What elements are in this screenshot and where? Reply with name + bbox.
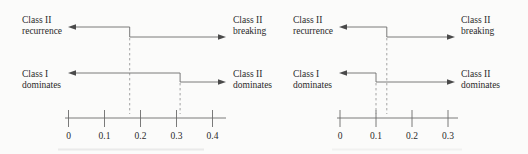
- label-class2-recurrence-line2: recurrence: [22, 26, 62, 36]
- label-class2-recurrence-line2: recurrence: [293, 26, 333, 36]
- class2-recurrence-arrow-head: [339, 24, 347, 29]
- axis-tick-label: 0.3: [442, 131, 454, 141]
- scan-artifact-left: [58, 149, 204, 151]
- class2-dominates-arrow-head: [447, 79, 455, 84]
- label-class2-recurrence-line1: Class II: [22, 15, 51, 25]
- label-class2-breaking-line2: breaking: [461, 26, 494, 36]
- label-class2-breaking-line1: Class II: [233, 15, 262, 25]
- class2-breaking-arrow-head: [218, 34, 226, 39]
- label-class2-breaking-line2: breaking: [233, 26, 266, 36]
- scan-artifact-right: [332, 149, 462, 151]
- label-class1-dominates-line2: dominates: [22, 80, 61, 90]
- axis-tick-label: 0.4: [207, 131, 219, 141]
- axis-tick-label: 0.3: [171, 131, 183, 141]
- label-class1-dominates-line2: dominates: [293, 80, 332, 90]
- axis-tick-label: 0: [338, 131, 343, 141]
- label-class2-breaking-line1: Class II: [461, 15, 490, 25]
- label-class2-dominates-line2: dominates: [233, 80, 272, 90]
- class1-dominates-arrow-head: [339, 70, 347, 75]
- figure-canvas: 00.10.20.30.4Class IIClass IIClass IClas…: [0, 0, 528, 154]
- class2-recurrence-arrow-head: [68, 24, 76, 29]
- label-class2-dominates-line1: Class II: [233, 69, 262, 79]
- class2-dominates-arrow-head: [218, 79, 226, 84]
- axis-tick-label: 0.2: [135, 131, 147, 141]
- phase-boundary-figure: 00.10.20.30.4Class IIClass IIClass IClas…: [0, 0, 528, 154]
- class1-dominates-arrow-head: [68, 70, 76, 75]
- axis-tick-label: 0.1: [370, 131, 382, 141]
- label-class2-recurrence-line1: Class II: [293, 15, 322, 25]
- label-class1-dominates-line1: Class I: [293, 69, 319, 79]
- axis-tick-label: 0: [66, 131, 71, 141]
- label-class1-dominates-line1: Class I: [22, 69, 48, 79]
- label-class2-dominates-line2: dominates: [461, 80, 500, 90]
- axis-tick-label: 0.2: [406, 131, 418, 141]
- axis-tick-label: 0.1: [99, 131, 111, 141]
- class2-breaking-arrow-head: [447, 34, 455, 39]
- left-panel-group: 00.10.20.30.4Class IIClass IIClass IClas…: [22, 15, 272, 141]
- right-panel-group: 00.10.20.3Class IIClass IIClass IClass I…: [293, 15, 500, 141]
- label-class2-dominates-line1: Class II: [461, 69, 490, 79]
